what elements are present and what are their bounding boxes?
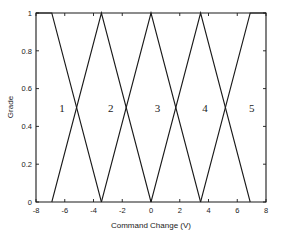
x-tick-label: 2 <box>178 206 182 215</box>
membership-curves-group <box>36 13 266 202</box>
mf-label-1: 1 <box>59 102 65 114</box>
mf-curve-2 <box>52 13 151 202</box>
mf-label-5: 5 <box>249 102 255 114</box>
membership-function-chart: -8-6-4-202468 00.20.40.60.81 12345 Comma… <box>0 0 281 241</box>
x-tick-labels-group: -8-6-4-202468 <box>33 206 268 215</box>
mf-curve-3 <box>101 13 200 202</box>
y-tick-label: 0.6 <box>22 84 32 93</box>
x-tick-label: -6 <box>61 206 68 215</box>
y-tick-labels-group: 00.20.40.60.81 <box>22 9 32 207</box>
x-tick-label: -2 <box>119 206 126 215</box>
mf-label-3: 3 <box>155 102 161 114</box>
mf-label-4: 4 <box>202 102 208 114</box>
axes-box <box>36 13 266 202</box>
mf-curve-5 <box>201 13 266 202</box>
x-tick-label: -4 <box>90 206 97 215</box>
x-tick-label: -8 <box>33 206 40 215</box>
mf-label-2: 2 <box>108 102 114 114</box>
x-tick-label: 0 <box>149 206 153 215</box>
x-tick-label: 4 <box>206 206 210 215</box>
mf-curve-1 <box>36 13 101 202</box>
x-tick-label: 8 <box>264 206 268 215</box>
y-tick-label: 0.8 <box>22 47 32 56</box>
x-tick-label: 6 <box>235 206 239 215</box>
tick-marks-group <box>36 13 266 202</box>
mf-curve-4 <box>151 13 250 202</box>
y-tick-label: 0.4 <box>22 122 32 131</box>
y-tick-label: 1 <box>28 9 32 18</box>
figure-container: -8-6-4-202468 00.20.40.60.81 12345 Comma… <box>0 0 281 241</box>
y-axis-title: Grade <box>6 95 15 118</box>
y-tick-label: 0.2 <box>22 160 32 169</box>
y-tick-label: 0 <box>28 198 32 207</box>
x-axis-title: Command Change (V) <box>111 221 191 230</box>
